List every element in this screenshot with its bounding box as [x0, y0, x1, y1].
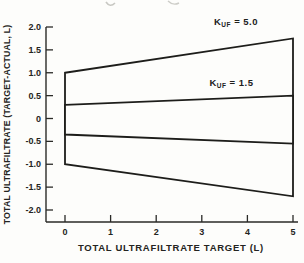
chart-svg: 2.01.51.00.50-0.5-1.0-1.5-2.0012345TOTAL… [0, 0, 304, 263]
x-tick-label: 5 [290, 227, 295, 237]
x-tick-label: 4 [245, 227, 250, 237]
x-tick-label: 3 [199, 227, 204, 237]
chart-figure: 2.01.51.00.50-0.5-1.0-1.5-2.0012345TOTAL… [0, 0, 304, 263]
x-tick-label: 0 [62, 227, 67, 237]
y-tick-label: -1.0 [25, 159, 41, 169]
y-axis-title: TOTAL ULTRAFILTRATE (TARGET-ACTUAL, L) [2, 25, 12, 225]
series-label: KUF = 5.0 [214, 16, 258, 29]
envelope-kuf-1.5 [65, 96, 293, 144]
x-axis-title: TOTAL ULTRAFILTRATE TARGET (L) [78, 242, 264, 253]
y-tick-label: -1.5 [25, 182, 41, 192]
scan-artifact [106, 1, 179, 5]
y-tick-label: -0.5 [25, 136, 41, 146]
y-tick-label: 2.0 [28, 22, 41, 32]
y-tick-label: 0.5 [28, 91, 41, 101]
y-tick-label: -2.0 [25, 205, 41, 215]
y-tick-label: 1.5 [28, 45, 41, 55]
x-tick-label: 1 [108, 227, 113, 237]
series-label: KUF = 1.5 [209, 77, 253, 90]
x-tick-label: 2 [154, 227, 159, 237]
y-tick-label: 1.0 [28, 68, 41, 78]
y-tick-label: 0 [36, 114, 41, 124]
